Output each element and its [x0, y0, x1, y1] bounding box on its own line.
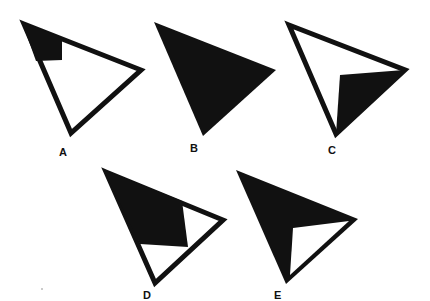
option-a-label: A: [59, 146, 67, 158]
option-a-shaded-region: [22, 22, 62, 61]
option-e[interactable]: E: [236, 170, 358, 301]
option-b[interactable]: B: [154, 22, 276, 154]
option-d-label: D: [143, 289, 151, 301]
option-b-label: B: [190, 142, 198, 154]
option-e-label: E: [274, 289, 281, 301]
option-d-shaded-region: [104, 170, 188, 247]
triangle-options-diagram: A B C D E: [0, 0, 430, 301]
option-c[interactable]: C: [289, 25, 405, 156]
option-b-filled-triangle: [154, 22, 276, 136]
option-a[interactable]: A: [22, 22, 141, 158]
stray-mark: [41, 288, 43, 290]
option-c-label: C: [328, 144, 336, 156]
option-d[interactable]: D: [104, 170, 223, 301]
